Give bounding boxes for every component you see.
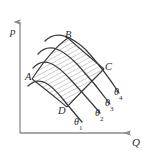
theta-sub-3: 3 — [110, 105, 114, 113]
point-label-d: D — [58, 106, 66, 117]
point-label-a: A — [25, 72, 31, 83]
point-label-c: C — [105, 62, 112, 73]
theta-sub-2: 2 — [100, 115, 104, 123]
curve-label-theta-3: θ3 — [105, 98, 113, 108]
point-label-b: B — [65, 30, 71, 41]
hatched-region-abcd — [32, 39, 103, 106]
figure-canvas: p Q A B C D θ1 θ2 θ3 θ4 — [0, 0, 151, 156]
theta-sub-4: 4 — [119, 94, 123, 102]
curve-label-theta-1: θ1 — [74, 117, 82, 127]
diagram-svg — [0, 0, 151, 156]
x-axis-label: Q — [132, 137, 140, 148]
theta-sub-1: 1 — [79, 124, 83, 132]
curve-label-theta-4: θ4 — [114, 87, 122, 97]
y-axis-label: p — [10, 26, 16, 37]
curve-label-theta-2: θ2 — [95, 108, 103, 118]
